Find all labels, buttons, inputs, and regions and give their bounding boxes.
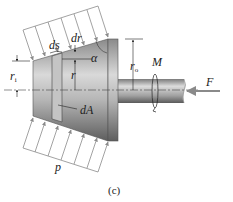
- label-F: F: [205, 75, 214, 89]
- label-ds: ds: [49, 38, 60, 52]
- label-r-o: ro: [130, 59, 139, 74]
- figure-caption: (c): [108, 184, 121, 197]
- label-dr: dr: [71, 31, 82, 45]
- shaft: [116, 79, 186, 103]
- label-alpha: α: [91, 51, 98, 65]
- label-M: M: [151, 55, 163, 69]
- label-r-i: ri: [10, 69, 17, 84]
- label-p: p: [54, 160, 61, 174]
- label-dA: dA: [80, 103, 94, 117]
- area-element-strip: [52, 53, 62, 122]
- label-r: r: [71, 68, 76, 82]
- conical-clutch-diagram: ri r dr ds α ro M F dA p (c): [0, 0, 233, 202]
